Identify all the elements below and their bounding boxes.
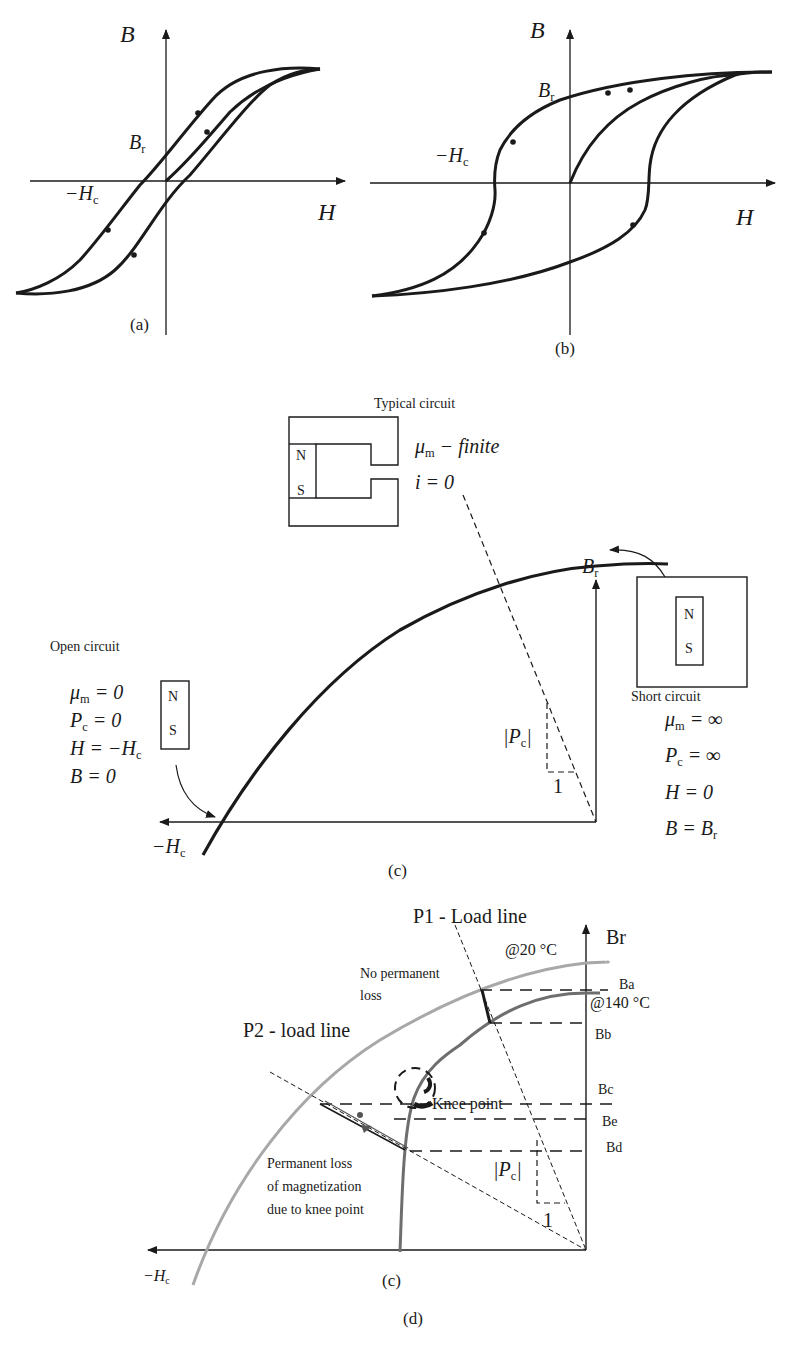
perm-loss-label-3: due to knee point [267, 1203, 364, 1217]
short-circuit-title: Short circuit [631, 690, 701, 704]
panel-d-slope-unit: 1 [543, 1210, 553, 1230]
p2-load-line-label: P2 - load line [243, 1020, 350, 1040]
temp-140c-label: @140 °C [590, 995, 650, 1011]
panel-c-coercivity-label: −Hc [152, 836, 185, 860]
open-eq-b: B = 0 [70, 766, 116, 786]
open-circuit-pointer [176, 765, 215, 817]
level-bd-label: Bd [606, 1141, 622, 1155]
panel-b-ascending-branch [372, 72, 772, 296]
panel-c-caption: (c) [388, 862, 407, 879]
br-label: Br [606, 927, 626, 947]
typical-circuit-title: Typical circuit [374, 397, 455, 411]
short-pole-s: S [685, 642, 693, 656]
panel-b-caption: (b) [555, 340, 575, 357]
panel-b-y-axis-label: B [530, 18, 545, 42]
p1-shift-segment [482, 990, 490, 1023]
panel-d-permeance-label: |Pc| [493, 1159, 522, 1183]
figure-canvas [0, 0, 789, 1350]
panel-a-coercivity-label: −Hc [65, 183, 98, 207]
short-eq-mu: μm = ∞ [665, 709, 722, 733]
panel-a-x-axis-label: H [318, 200, 335, 224]
panel-a-y-axis-label: B [120, 22, 135, 46]
panel-a-caption: (a) [130, 316, 149, 333]
level-bc-label: Bc [598, 1083, 614, 1097]
level-ba-label: Ba [619, 978, 635, 992]
direction-marker [605, 90, 611, 96]
panel-b-remanence-label: Br [538, 80, 554, 104]
panel-c-remanence-label: Br [582, 556, 598, 580]
temp-20c-label: @20 °C [505, 942, 557, 958]
direction-marker [105, 227, 111, 233]
short-eq-b: B = Br [665, 818, 717, 842]
panel-d-coercivity-label: −Hc [143, 1268, 170, 1286]
perm-loss-label-2: of magnetization [267, 1180, 361, 1194]
typical-mu-label: μm − finite [415, 436, 499, 460]
open-circuit-title: Open circuit [50, 640, 120, 654]
direction-marker [195, 110, 201, 116]
open-eq-mu: μm = 0 [70, 682, 123, 706]
typical-pole-n: N [296, 449, 306, 463]
typical-current-label: i = 0 [415, 472, 454, 492]
short-eq-h: H = 0 [665, 782, 713, 802]
panel-b-graphics [370, 30, 775, 335]
direction-marker [131, 252, 137, 258]
panel-d-slope-triangle [537, 1140, 565, 1203]
level-bb-label: Bb [595, 1028, 611, 1042]
panel-c-demagnetization-curve [203, 564, 668, 855]
perm-loss-label-1: Permanent loss [267, 1157, 352, 1171]
typical-circuit-core [289, 417, 398, 526]
direction-marker [204, 129, 210, 135]
open-eq-pc: Pc = 0 [70, 710, 121, 734]
panel-c-permeance-label: |Pc| [503, 726, 532, 750]
direction-marker [481, 230, 487, 236]
knee-point-label: Knee point [432, 1096, 503, 1112]
level-be-label: Be [602, 1115, 618, 1129]
open-pole-s: S [169, 724, 177, 738]
open-eq-h: H = −Hc [70, 738, 141, 762]
direction-marker [630, 222, 636, 228]
short-eq-pc: Pc = ∞ [665, 745, 720, 769]
curve-140c [400, 993, 600, 1252]
panel-b-x-axis-label: H [736, 205, 753, 229]
panel-c-load-line [463, 495, 596, 822]
short-pole-n: N [684, 608, 694, 622]
direction-marker [510, 139, 516, 145]
panel-b-coercivity-label: −Hc [435, 145, 468, 169]
panel-d-caption: (d) [403, 1310, 423, 1327]
panel-c-slope-unit: 1 [553, 776, 563, 796]
panel-d-inner-caption: (c) [382, 1272, 401, 1289]
typical-pole-s: S [297, 484, 305, 498]
no-loss-label-1: No permanent [360, 967, 440, 981]
direction-marker [627, 87, 633, 93]
short-circuit-box [637, 577, 747, 687]
open-pole-n: N [168, 690, 178, 704]
p1-load-line [455, 925, 586, 1250]
p1-load-line-label: P1 - Load line [413, 906, 527, 926]
panel-a-remanence-label: Br [129, 132, 145, 156]
no-loss-label-2: loss [360, 989, 382, 1003]
